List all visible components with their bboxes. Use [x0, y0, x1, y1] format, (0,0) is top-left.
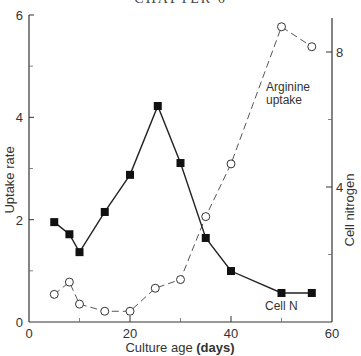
filled-square-marker — [101, 208, 109, 216]
filled-square-marker — [177, 159, 185, 167]
filled-square-marker — [227, 267, 235, 275]
open-circle-marker — [227, 160, 235, 168]
open-circle-marker — [101, 307, 109, 315]
filled-square-marker — [154, 102, 162, 110]
filled-square-marker — [76, 248, 84, 256]
left-y-tick-label: 0 — [16, 315, 23, 330]
open-circle-marker — [177, 276, 185, 284]
left-y-tick-label: 6 — [16, 8, 23, 23]
filled-square-marker — [126, 171, 134, 179]
open-circle-marker — [278, 23, 286, 31]
arginine-uptake-label: Arginine — [266, 80, 310, 94]
x-axis-label: Culture age (days) — [125, 340, 234, 355]
open-circle-marker — [65, 278, 73, 286]
open-circle-marker — [126, 307, 134, 315]
cell-n-label: Cell N — [265, 299, 298, 313]
open-circle-marker — [202, 213, 210, 221]
x-tick-label: 0 — [25, 326, 32, 341]
open-circle-marker — [151, 284, 159, 292]
left-y-axis-label: Uptake rate — [2, 146, 17, 213]
x-tick-label: 40 — [224, 326, 238, 341]
series-cell-nitrogen — [50, 102, 316, 297]
right-y-axis-label: Cell nitrogen — [342, 174, 357, 247]
x-tick-label: 60 — [325, 326, 339, 341]
labels: ArginineuptakeCell N — [265, 80, 310, 313]
dual-axis-line-chart: 0246480204060Culture age (days)Uptake ra… — [0, 0, 361, 356]
open-circle-marker — [76, 300, 84, 308]
axes: 0246480204060Culture age (days)Uptake ra… — [2, 8, 357, 355]
arginine-uptake-label: uptake — [266, 93, 302, 107]
filled-square-marker — [65, 230, 73, 238]
left-y-tick-label: 2 — [16, 213, 23, 228]
filled-square-marker — [278, 289, 286, 297]
left-y-tick-label: 4 — [16, 110, 23, 125]
x-tick-label: 20 — [123, 326, 137, 341]
right-y-tick-label: 8 — [336, 45, 343, 60]
filled-square-marker — [202, 234, 210, 242]
filled-square-marker — [308, 289, 316, 297]
open-circle-marker — [50, 290, 58, 298]
filled-square-marker — [50, 218, 58, 226]
open-circle-marker — [308, 43, 316, 51]
cell-n-line — [54, 106, 312, 293]
